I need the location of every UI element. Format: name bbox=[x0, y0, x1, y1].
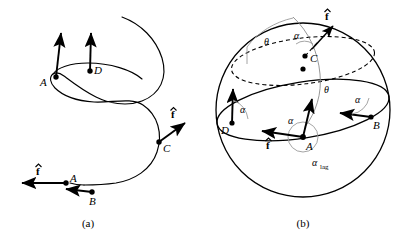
angle-alpha-at-c-label: α bbox=[294, 30, 300, 41]
alpha-at-c-arc bbox=[296, 41, 313, 44]
angle-alpha-at-b-label: α bbox=[355, 94, 361, 105]
angle-theta-top-label: θ bbox=[264, 36, 269, 47]
point-a-lower-label: A bbox=[69, 172, 77, 184]
alpha-lag-label-group: α lag bbox=[312, 157, 329, 171]
vector-at-a-upper bbox=[56, 33, 61, 77]
helix-curve bbox=[51, 17, 164, 185]
point-c-label-b: C bbox=[310, 52, 318, 64]
figure-container: A D C f A f B (a) bbox=[0, 0, 409, 244]
vector-at-c-b bbox=[312, 26, 333, 49]
point-a-label-b: A bbox=[305, 140, 313, 152]
point-a-upper-label: A bbox=[39, 76, 47, 88]
panel-a-group: A D C f A f B (a) bbox=[22, 17, 185, 230]
panel-b-caption: (b) bbox=[297, 217, 310, 230]
vector-at-d bbox=[90, 33, 91, 71]
theta-top-arc bbox=[247, 18, 293, 47]
fhat-at-c-b-label-group: f bbox=[325, 9, 331, 22]
angle-alpha-at-a-label: α bbox=[288, 115, 294, 126]
point-d-label-b: D bbox=[220, 124, 229, 136]
alpha-lag-subscript: lag bbox=[320, 163, 329, 171]
point-d-label: D bbox=[93, 64, 102, 76]
fhat-at-c-b-label: f bbox=[325, 10, 329, 22]
alpha-lag-symbol: α bbox=[312, 157, 318, 168]
point-b-label-b: B bbox=[373, 119, 380, 131]
figure-svg: A D C f A f B (a) bbox=[0, 0, 409, 244]
fhat-at-a-b-label: f bbox=[266, 139, 270, 151]
angle-theta-mid-label: θ bbox=[324, 84, 329, 95]
vector-fhat-at-a-b bbox=[262, 131, 303, 137]
panel-a-caption: (a) bbox=[82, 217, 95, 230]
panel-b-group: C f α θ θ α D α B bbox=[213, 9, 394, 230]
fhat-at-a-b-label-group: f bbox=[266, 138, 272, 151]
vector-at-d-b bbox=[232, 89, 233, 123]
angle-alpha-at-d-label: α bbox=[240, 104, 246, 115]
point-c-label: C bbox=[163, 142, 171, 154]
point-b-label: B bbox=[89, 195, 96, 207]
point-c-secondary-dot bbox=[300, 66, 305, 71]
vector-at-b bbox=[66, 189, 92, 192]
latitude-circle-dashed bbox=[229, 29, 378, 92]
fhat-at-a-lower-label: f bbox=[36, 165, 40, 177]
vector-at-c bbox=[159, 123, 185, 142]
fhat-at-a-lower-label-group: f bbox=[36, 164, 42, 177]
fhat-at-c-label-group: f bbox=[171, 108, 177, 121]
